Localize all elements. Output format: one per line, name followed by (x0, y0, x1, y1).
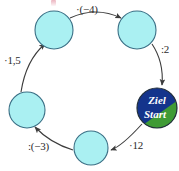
edge-label-bottom-to-left: :(−3) (28, 141, 49, 152)
edge-label-topleft-to-topright: ·(−4) (76, 4, 98, 15)
node-top-right[interactable] (118, 11, 156, 49)
ziel-label: Ziel (147, 94, 167, 106)
diagram-canvas: Ziel Start ·(−4) :2 ·12 :(−3) ·1,5 (0, 0, 179, 171)
edge-label-left-to-topleft: ·1,5 (4, 55, 21, 66)
node-bottom[interactable] (74, 131, 108, 165)
edge-label-topright-to-ziel: :2 (161, 44, 169, 55)
node-left[interactable] (9, 92, 45, 128)
start-label: Start (144, 108, 167, 120)
node-top-left[interactable] (35, 11, 73, 49)
operation-cycle-diagram: Ziel Start (0, 0, 179, 171)
edge-label-start-to-bottom: ·12 (129, 140, 143, 151)
node-start-ziel[interactable]: Ziel Start (133, 86, 179, 132)
edge-left-to-topleft-arrow (21, 44, 45, 92)
